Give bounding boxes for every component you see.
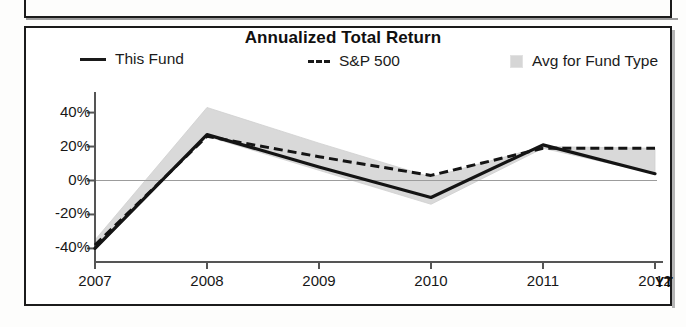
x-axis-suffix-label: YT (655, 274, 673, 290)
y-tick-label: 40% (60, 103, 90, 120)
legend-item-avg-for-fund-type: Avg for Fund Type (510, 52, 658, 70)
y-tick-label: 0% (68, 171, 90, 188)
y-tick-label: 20% (60, 137, 90, 154)
x-tick-label: 2007 (78, 272, 111, 289)
chart-title: Annualized Total Return (0, 28, 686, 48)
legend-item-this-fund: This Fund (80, 50, 184, 68)
x-tick-label: 2010 (414, 272, 447, 289)
x-tick-label: 2011 (527, 272, 559, 289)
partial-box-above-chart (24, 0, 672, 18)
x-tick-label: 2008 (190, 272, 223, 289)
legend-label-this-fund: This Fund (115, 50, 184, 68)
chart-legend: This Fund S&P 500 Avg for Fund Type (80, 50, 668, 74)
shaded-area-swatch-icon (510, 55, 523, 68)
y-tick-label: -20% (55, 204, 90, 221)
scanned-page: Annualized Total Return This Fund S&P 50… (0, 0, 686, 327)
x-axis-tick-labels: 200720082009201020112012 (0, 272, 686, 298)
legend-label-avg-for-fund-type: Avg for Fund Type (532, 52, 658, 70)
x-tick-label: 2009 (302, 272, 335, 289)
chart-frame-scan-shadow (672, 30, 675, 308)
partial-box-scan-shadow (26, 18, 678, 20)
dashed-line-swatch-icon (308, 60, 330, 63)
legend-item-sp500: S&P 500 (308, 52, 400, 70)
y-tick-label: -40% (55, 238, 90, 255)
legend-label-sp500: S&P 500 (339, 52, 400, 70)
